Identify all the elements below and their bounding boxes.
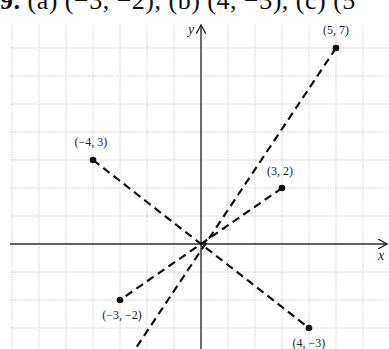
dashed-segment bbox=[136, 48, 336, 348]
grid bbox=[10, 24, 389, 349]
point-label: (−3, −2) bbox=[102, 308, 142, 322]
point-label: (5, 7) bbox=[323, 23, 349, 37]
point-label: (4, −3) bbox=[293, 336, 326, 349]
data-point bbox=[279, 185, 286, 192]
y-axis-label: y bbox=[186, 22, 195, 37]
data-point bbox=[117, 297, 124, 304]
point-label: (3, 2) bbox=[267, 164, 293, 178]
data-point bbox=[90, 157, 97, 164]
coordinate-plane: x y (5, 7)(−4, 3)(3, 2)(−3, −2)(4, −3) bbox=[0, 0, 389, 349]
x-axis-label: x bbox=[377, 248, 385, 263]
data-point bbox=[333, 45, 340, 52]
point-label: (−4, 3) bbox=[75, 135, 108, 149]
data-point bbox=[306, 325, 313, 332]
dashed-segments bbox=[93, 48, 336, 348]
